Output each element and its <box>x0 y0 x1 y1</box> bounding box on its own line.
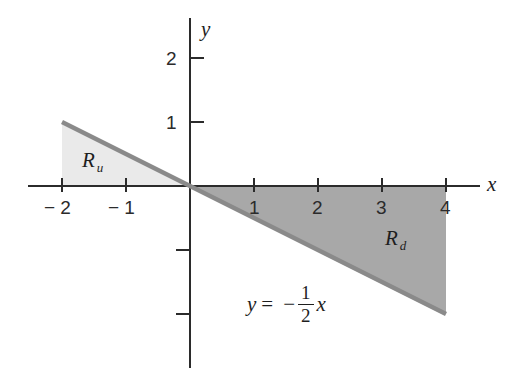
x-tick-label-neg2: − 2 <box>44 198 71 217</box>
region-rd-subscript: d <box>398 238 407 253</box>
y-tick-label-1: 1 <box>166 113 177 132</box>
math-diagram: y x 2 1 − 2 − 1 1 2 3 4 Ru Rd y = − 1 2 … <box>0 0 512 389</box>
region-rd-base: R <box>385 226 398 250</box>
y-tick-label-2: 2 <box>166 49 177 68</box>
equation-fraction: 1 2 <box>298 283 314 326</box>
region-ru-base: R <box>82 148 95 172</box>
region-label-ru: Ru <box>82 150 103 174</box>
y-axis-label: y <box>201 19 210 40</box>
region-label-rd: Rd <box>385 228 406 252</box>
equation-minus-sign: − <box>278 294 297 315</box>
region-ru-subscript: u <box>95 160 104 175</box>
equation-variable: x <box>315 294 326 315</box>
x-tick-label-3: 3 <box>376 198 387 217</box>
coordinate-plane <box>0 0 512 389</box>
equation-label: y = − 1 2 x <box>247 283 326 326</box>
fraction-denominator: 2 <box>298 304 314 326</box>
equation-lhs: y <box>247 294 256 315</box>
equation-equals: = <box>256 294 278 315</box>
x-axis-label: x <box>487 174 496 195</box>
x-tick-label-4: 4 <box>440 198 451 217</box>
x-tick-label-1: 1 <box>249 198 260 217</box>
x-tick-label-neg1: − 1 <box>108 198 135 217</box>
fraction-numerator: 1 <box>298 283 314 304</box>
x-tick-label-2: 2 <box>312 198 323 217</box>
